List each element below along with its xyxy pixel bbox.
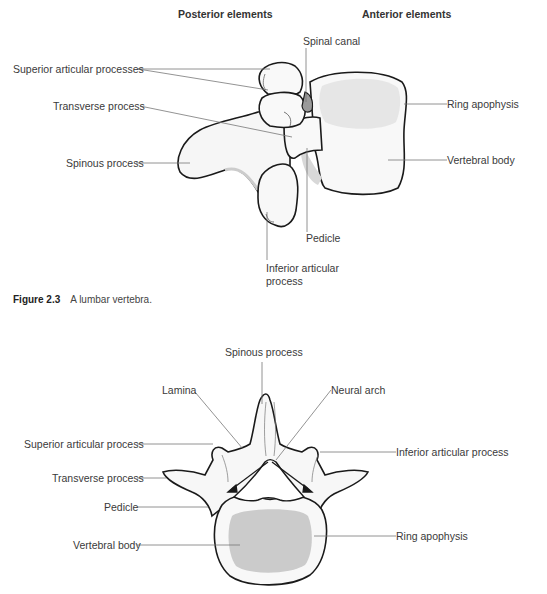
label-pedicle: Pedicle [306, 232, 340, 244]
label-spinal-canal: Spinal canal [303, 35, 360, 47]
label-lamina: Lamina [162, 384, 196, 396]
label-spinous-process: Spinous process [66, 157, 144, 169]
label-transverse-process-superior: Transverse process [52, 472, 144, 484]
vertebral-body-core [229, 509, 312, 572]
figure-number: Figure 2.3 [13, 294, 60, 305]
label-superior-articular-processes: Superior articular processes [13, 63, 144, 75]
anterior-elements-header: Anterior elements [362, 8, 451, 20]
posterior-elements-header: Posterior elements [178, 8, 273, 20]
figure-caption-text: A lumbar vertebra. [70, 294, 152, 305]
label-ring-apophysis-superior: Ring apophysis [396, 530, 468, 542]
label-neural-arch: Neural arch [331, 384, 385, 396]
superior-articular-process-upper [259, 63, 302, 96]
inferior-articular-process-lateral [258, 164, 298, 226]
label-transverse-process: Transverse process [53, 100, 145, 112]
ring-apophysis-surface [319, 79, 400, 129]
label-superior-articular-process: Superior articular process [24, 438, 144, 450]
label-inferior-articular-process-l1: Inferior articular [266, 262, 339, 274]
label-vertebral-body-superior: Vertebral body [73, 539, 141, 551]
label-inferior-articular-process: Inferior articular process [396, 446, 509, 458]
label-ring-apophysis: Ring apophysis [447, 98, 519, 110]
label-vertebral-body: Vertebral body [447, 154, 515, 166]
superior-articular-process-lower [259, 92, 305, 127]
label-pedicle-superior: Pedicle [104, 501, 138, 513]
label-inferior-articular-process-l2: process [266, 275, 303, 287]
label-spinous-process-superior: Spinous process [225, 346, 303, 358]
figure-caption: Figure 2.3A lumbar vertebra. [13, 294, 152, 305]
